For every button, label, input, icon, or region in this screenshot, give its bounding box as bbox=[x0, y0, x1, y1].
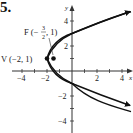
focus-label-numerator: 3 bbox=[42, 25, 45, 31]
vertex-point bbox=[45, 56, 50, 61]
y-axis-label: y bbox=[64, 4, 69, 12]
y-axis: y 4 2 −2 −4 bbox=[58, 4, 75, 133]
x-axis-arrow-icon bbox=[127, 69, 133, 74]
focus-label-prefix: F (− bbox=[24, 27, 39, 37]
y-axis-arrow-icon bbox=[70, 5, 75, 11]
chart-canvas: −4 −2 2 4 x y 4 2 −2 −4 bbox=[0, 0, 133, 133]
x-tick-label: −4 bbox=[17, 74, 26, 83]
y-tick-label: 2 bbox=[64, 42, 68, 51]
focus-label-denominator: 2 bbox=[42, 34, 45, 40]
x-tick-label: 4 bbox=[120, 74, 124, 83]
y-tick-label: −4 bbox=[58, 117, 67, 126]
focus-label: F (− 3 2 , 1) bbox=[24, 25, 58, 40]
parabola-figure: 5. −4 −2 2 4 x bbox=[0, 0, 133, 133]
focus-label-suffix: , 1) bbox=[46, 27, 58, 37]
problem-number: 5. bbox=[0, 0, 11, 15]
y-tick-label: 4 bbox=[64, 17, 68, 26]
x-tick-label: 2 bbox=[95, 74, 99, 83]
vertex-label: V (−2, 1) bbox=[1, 54, 32, 64]
y-tick-label: −2 bbox=[58, 92, 67, 101]
x-axis-label: x bbox=[128, 74, 133, 82]
parabola-upper-arm bbox=[47, 12, 130, 59]
focus-point bbox=[51, 56, 56, 61]
x-tick-label: −2 bbox=[41, 74, 50, 83]
